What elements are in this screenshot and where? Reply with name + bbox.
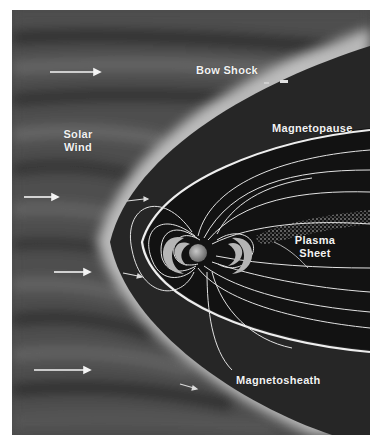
diagram-artwork bbox=[12, 10, 370, 435]
magnetosheath-label: Magnetosheath bbox=[236, 374, 321, 387]
magnetosphere-diagram: Bow Shock Solar Wind Magnetopause Plasma… bbox=[12, 10, 370, 435]
bow-shock-label: Bow Shock bbox=[196, 64, 258, 77]
solar-wind-label: Solar Wind bbox=[58, 128, 98, 154]
plasma-sheet-label: Plasma Sheet bbox=[292, 234, 338, 260]
solar-wind-label-line1: Solar bbox=[58, 128, 98, 141]
plasma-sheet-label-line2: Sheet bbox=[292, 247, 338, 260]
magnetopause-label: Magnetopause bbox=[272, 122, 353, 135]
earth-icon bbox=[189, 244, 207, 262]
plasma-sheet-label-line1: Plasma bbox=[292, 234, 338, 247]
solar-wind-label-line2: Wind bbox=[58, 141, 98, 154]
